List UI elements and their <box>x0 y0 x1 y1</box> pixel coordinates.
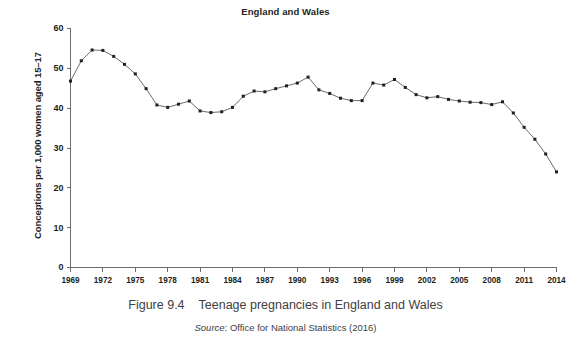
data-point-marker <box>555 170 558 173</box>
source-text: Office for National Statistics (2016) <box>230 322 377 333</box>
figure-caption: Figure 9.4Teenage pregnancies in England… <box>0 298 571 312</box>
conceptions-series-markers <box>69 49 558 174</box>
y-tick-label: 0 <box>58 262 63 272</box>
data-point-marker <box>220 110 223 113</box>
data-point-marker <box>134 72 137 75</box>
data-point-marker <box>188 100 191 103</box>
data-point-marker <box>501 100 504 103</box>
data-point-marker <box>425 96 428 99</box>
data-point-marker <box>166 106 169 109</box>
data-point-marker <box>404 86 407 89</box>
data-point-marker <box>350 99 353 102</box>
x-tick-label: 1975 <box>126 276 145 285</box>
data-point-marker <box>371 82 374 85</box>
data-point-marker <box>382 84 385 87</box>
y-tick-label: 30 <box>53 143 63 153</box>
data-point-marker <box>274 87 277 90</box>
data-point-marker <box>393 78 396 81</box>
x-tick-label: 1996 <box>353 276 372 285</box>
data-point-marker <box>101 49 104 52</box>
x-tick-label: 2011 <box>515 276 533 285</box>
data-point-marker <box>458 100 461 103</box>
data-point-marker <box>123 63 126 66</box>
figure-source: Source: Office for National Statistics (… <box>0 322 571 333</box>
x-tick-label: 2008 <box>483 276 502 285</box>
y-tick-label: 60 <box>53 23 63 33</box>
data-point-marker <box>436 95 439 98</box>
data-point-marker <box>447 98 450 101</box>
data-point-marker <box>242 95 245 98</box>
data-point-marker <box>469 101 472 104</box>
x-tick-label: 1972 <box>94 276 113 285</box>
data-point-marker <box>285 84 288 87</box>
data-point-marker <box>296 82 299 85</box>
data-point-marker <box>253 90 256 93</box>
y-tick-label: 50 <box>53 63 63 73</box>
x-tick-label: 1984 <box>223 276 242 285</box>
data-point-marker <box>263 90 266 93</box>
data-point-marker <box>199 109 202 112</box>
x-axis-ticks: 1969197219751978198119841987199019931996… <box>61 268 566 285</box>
data-point-marker <box>479 101 482 104</box>
x-tick-label: 1987 <box>256 276 275 285</box>
source-separator: : <box>225 322 228 333</box>
x-tick-label: 1993 <box>321 276 340 285</box>
data-point-marker <box>533 138 536 141</box>
y-tick-label: 10 <box>53 223 63 233</box>
data-point-marker <box>490 103 493 106</box>
x-tick-label: 2002 <box>418 276 437 285</box>
x-tick-label: 1978 <box>159 276 178 285</box>
conceptions-series-line <box>71 50 557 172</box>
data-point-marker <box>415 93 418 96</box>
data-point-marker <box>544 152 547 155</box>
x-tick-label: 1969 <box>61 276 80 285</box>
data-point-marker <box>91 49 94 52</box>
data-point-marker <box>209 111 212 114</box>
data-point-marker <box>80 59 83 62</box>
data-point-marker <box>69 80 72 83</box>
line-chart-plot: 0102030405060 19691972197519781981198419… <box>0 0 571 295</box>
data-point-marker <box>523 126 526 129</box>
data-point-marker <box>177 103 180 106</box>
y-tick-label: 20 <box>53 183 63 193</box>
data-point-marker <box>339 97 342 100</box>
figure-caption-text: Teenage pregnancies in England and Wales <box>199 298 443 312</box>
data-point-marker <box>112 55 115 58</box>
x-tick-label: 1990 <box>288 276 307 285</box>
y-tick-label: 40 <box>53 103 63 113</box>
figure-container: England and Wales Conceptions per 1,000 … <box>0 0 571 353</box>
data-point-marker <box>145 87 148 90</box>
data-point-marker <box>317 88 320 91</box>
x-tick-label: 2005 <box>450 276 469 285</box>
x-tick-label: 2014 <box>547 276 566 285</box>
figure-number: Figure 9.4 <box>128 298 184 312</box>
data-point-marker <box>512 111 515 114</box>
data-point-marker <box>361 99 364 102</box>
y-axis-ticks: 0102030405060 <box>53 23 70 272</box>
data-point-marker <box>155 103 158 106</box>
data-point-marker <box>231 106 234 109</box>
x-tick-label: 1999 <box>385 276 404 285</box>
x-tick-label: 1981 <box>191 276 210 285</box>
data-point-marker <box>328 92 331 95</box>
data-point-marker <box>307 76 310 79</box>
source-label: Source <box>194 322 224 333</box>
